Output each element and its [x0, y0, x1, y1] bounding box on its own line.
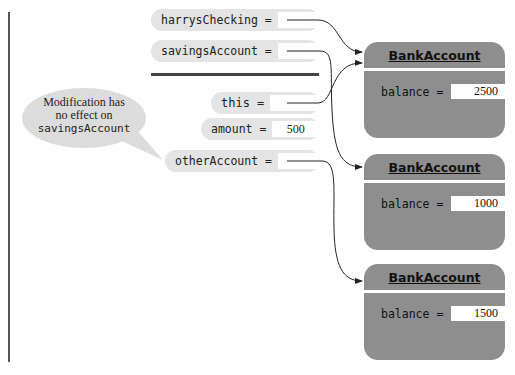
reference-arrows	[0, 0, 515, 375]
arrow-otherAccount	[287, 161, 362, 281]
arrow-this	[287, 63, 362, 103]
arrow-savingsAccount	[287, 51, 362, 167]
arrow-harrysChecking	[287, 20, 362, 52]
